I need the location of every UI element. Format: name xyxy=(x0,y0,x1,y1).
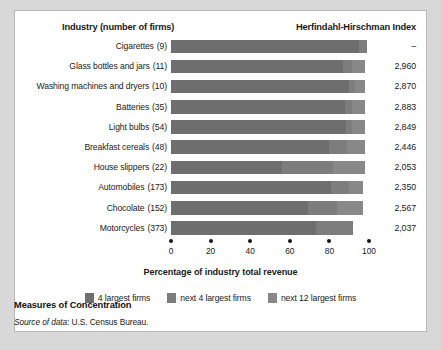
row-firm-count: (54) xyxy=(152,122,167,132)
stacked-bar xyxy=(171,161,369,175)
bar-segment-2 xyxy=(359,40,367,54)
bar-segment-1 xyxy=(171,100,345,114)
row-firm-count: (22) xyxy=(152,162,167,172)
row-hhi-value: 2,446 xyxy=(370,142,416,152)
chart-row: Washing machines and dryers(10)2,870 xyxy=(15,77,426,97)
bar-segment-3 xyxy=(355,80,365,94)
row-label: Breakfast cereals(48) xyxy=(15,142,167,152)
row-hhi-value: 2,883 xyxy=(370,102,416,112)
bar-segment-3 xyxy=(349,181,363,195)
row-label: Motorcycles(373) xyxy=(15,223,167,233)
bar-segment-1 xyxy=(171,221,316,235)
row-firm-count: (11) xyxy=(153,61,167,71)
chart-row: Batteries(35)2,883 xyxy=(15,98,426,118)
row-label: Batteries(35) xyxy=(15,102,167,112)
caption-block: Measures of Concentration Source of data… xyxy=(14,300,427,327)
caption-source: Source of data: U.S. Census Bureau. xyxy=(14,317,427,327)
row-label: Washing machines and dryers(10) xyxy=(15,81,167,91)
axis-tick-dot xyxy=(209,239,213,243)
row-label: House slippers(22) xyxy=(15,162,167,172)
chart-row: Motorcycles(373)2,037 xyxy=(15,219,426,239)
row-hhi-value: 2,849 xyxy=(370,122,416,132)
row-hhi-value: 2,037 xyxy=(370,223,416,233)
column-headers: Industry (number of firms) Herfindahl-Hi… xyxy=(15,22,426,36)
stacked-bar xyxy=(171,201,369,215)
row-category: Glass bottles and jars xyxy=(69,61,149,71)
bar-segment-3 xyxy=(352,120,365,134)
row-hhi-value: 2,870 xyxy=(370,81,416,91)
row-category: Breakfast cereals xyxy=(84,142,149,152)
bar-segment-1 xyxy=(171,181,331,195)
row-category: Batteries xyxy=(116,102,149,112)
chart-row: House slippers(22)2,053 xyxy=(15,158,426,178)
axis-tick-label: 40 xyxy=(246,246,255,256)
hhi-column-header: Herfindahl-Hirschman Index xyxy=(296,22,416,32)
chart-row: Breakfast cereals(48)2,446 xyxy=(15,138,426,158)
row-category: Motorcycles xyxy=(100,223,145,233)
row-hhi-value: 2,053 xyxy=(370,162,416,172)
axis-tick-label: 20 xyxy=(206,246,215,256)
row-firm-count: (35) xyxy=(152,102,167,112)
x-axis-title: Percentage of industry total revenue xyxy=(15,267,426,277)
row-label: Chocolate(152) xyxy=(15,203,167,213)
stacked-bar xyxy=(171,60,369,74)
bar-segment-1 xyxy=(171,201,308,215)
row-firm-count: (10) xyxy=(152,81,167,91)
row-label: Automobiles(173) xyxy=(15,182,167,192)
chart-row: Automobiles(173)2,350 xyxy=(15,178,426,198)
chart-rows: Cigarettes(9)–Glass bottles and jars(11)… xyxy=(15,37,426,239)
caption-title: Measures of Concentration xyxy=(14,300,427,310)
bar-segment-2 xyxy=(282,161,333,175)
row-category: Chocolate xyxy=(107,203,145,213)
bar-segment-1 xyxy=(171,80,349,94)
bar-segment-1 xyxy=(171,60,343,74)
row-hhi-value: 2,567 xyxy=(370,203,416,213)
bar-segment-2 xyxy=(345,100,352,114)
x-axis: 020406080100 xyxy=(171,239,369,265)
chart-row: Glass bottles and jars(11)2,960 xyxy=(15,57,426,77)
axis-tick-dot xyxy=(169,239,173,243)
row-label: Cigarettes(9) xyxy=(15,41,167,51)
bar-segment-2 xyxy=(329,140,347,154)
stacked-bar xyxy=(171,120,369,134)
source-rest: : U.S. Census Bureau. xyxy=(67,317,148,327)
bar-segment-2 xyxy=(308,201,338,215)
row-firm-count: (9) xyxy=(157,41,167,51)
chart-figure: Industry (number of firms) Herfindahl-Hi… xyxy=(14,10,427,332)
row-firm-count: (373) xyxy=(147,223,167,233)
stacked-bar xyxy=(171,100,369,114)
bar-segment-3 xyxy=(333,161,365,175)
axis-tick-dot xyxy=(327,239,331,243)
industry-column-header: Industry (number of firms) xyxy=(62,22,174,32)
stacked-bar xyxy=(171,140,369,154)
row-category: House slippers xyxy=(94,162,149,172)
row-category: Cigarettes xyxy=(116,41,154,51)
bar-segment-1 xyxy=(171,120,346,134)
bar-segment-3 xyxy=(347,140,365,154)
chart-row: Chocolate(152)2,567 xyxy=(15,199,426,219)
bar-segment-1 xyxy=(171,161,282,175)
row-hhi-value: 2,960 xyxy=(370,61,416,71)
bar-segment-2 xyxy=(316,221,354,235)
bar-segment-2 xyxy=(331,181,349,195)
row-category: Washing machines and dryers xyxy=(37,81,150,91)
row-firm-count: (173) xyxy=(147,182,167,192)
bar-segment-3 xyxy=(352,100,365,114)
bar-segment-2 xyxy=(343,60,352,74)
axis-tick-dot xyxy=(367,239,371,243)
axis-tick-label: 100 xyxy=(362,246,376,256)
stacked-bar xyxy=(171,181,369,195)
row-label: Glass bottles and jars(11) xyxy=(15,61,167,71)
bar-segment-3 xyxy=(337,201,363,215)
source-lead: Source of data xyxy=(14,317,67,327)
bar-segment-1 xyxy=(171,40,359,54)
row-hhi-value: – xyxy=(370,41,416,51)
row-firm-count: (152) xyxy=(147,203,167,213)
stacked-bar xyxy=(171,80,369,94)
axis-tick-dot xyxy=(248,239,252,243)
row-label: Light bulbs(54) xyxy=(15,122,167,132)
axis-tick-label: 80 xyxy=(325,246,334,256)
stacked-bar xyxy=(171,221,369,235)
chart-row: Cigarettes(9)– xyxy=(15,37,426,57)
chart-row: Light bulbs(54)2,849 xyxy=(15,118,426,138)
